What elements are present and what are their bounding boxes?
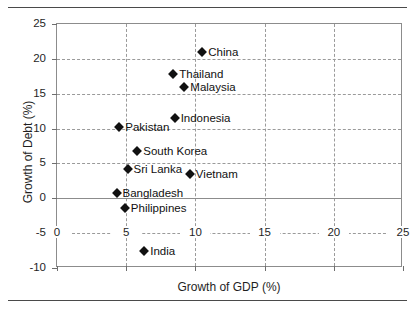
data-point-marker [179, 82, 189, 92]
x-tick-label-20: 20 [319, 226, 349, 238]
data-point-label: Philippines [131, 202, 187, 214]
data-point-marker [168, 69, 178, 79]
data-point-label: Indonesia [181, 112, 231, 124]
zero-line [57, 198, 401, 199]
y-tick-label--10: -10 [12, 261, 46, 273]
y-tick-mark-20 [52, 59, 57, 60]
gridline-horizontal-20 [57, 59, 401, 60]
data-point-label: Malaysia [190, 81, 235, 93]
x-tick-label-15: 15 [250, 226, 280, 238]
x-tick-mark-25 [403, 266, 404, 271]
y-tick-mark-0 [52, 198, 57, 199]
y-tick-label-25: 25 [12, 17, 46, 29]
gridline-horizontal--5 [57, 233, 401, 234]
data-point-label: India [150, 245, 175, 257]
data-point-label: Bangladesh [123, 187, 184, 199]
x-tick-mark-20 [334, 266, 335, 271]
data-point-label: Pakistan [125, 121, 169, 133]
x-tick-label-5: 5 [111, 226, 141, 238]
y-axis-title: Growth of Debt (%) [21, 72, 35, 232]
data-point-label: Vietnam [196, 168, 238, 180]
x-tick-label-10: 10 [180, 226, 210, 238]
data-point-marker [197, 47, 207, 57]
x-axis-title: Growth of GDP (%) [56, 280, 402, 294]
data-point-marker [170, 113, 180, 123]
data-point-marker [185, 169, 195, 179]
x-tick-label-25: 25 [388, 226, 415, 238]
y-tick-mark-5 [52, 163, 57, 164]
y-tick-mark-25 [52, 24, 57, 25]
y-tick-label-20: 20 [12, 52, 46, 64]
y-tick-mark-15 [52, 94, 57, 95]
data-point-label: China [208, 46, 238, 58]
gridline-horizontal-10 [57, 129, 401, 130]
plot-area: ChinaThailandMalaysiaIndonesiaPakistanSo… [56, 23, 402, 267]
figure: ChinaThailandMalaysiaIndonesiaPakistanSo… [0, 0, 415, 312]
x-tick-mark-10 [195, 266, 196, 271]
y-tick-mark-10 [52, 129, 57, 130]
x-tick-mark-0 [57, 266, 58, 271]
figure-top-rule [8, 7, 407, 8]
x-tick-mark-15 [265, 266, 266, 271]
data-point-marker [112, 188, 122, 198]
x-tick-mark-5 [126, 266, 127, 271]
data-point-marker [132, 146, 142, 156]
data-point-marker [114, 122, 124, 132]
gridline-horizontal-15 [57, 94, 401, 95]
gridline-horizontal-5 [57, 163, 401, 164]
figure-bottom-rule [8, 300, 407, 301]
data-point-marker [123, 164, 133, 174]
x-tick-label-0: 0 [42, 226, 72, 238]
data-point-marker [139, 246, 149, 256]
data-point-label: Sri Lanka [134, 163, 183, 175]
data-point-label: South Korea [143, 145, 207, 157]
data-point-label: Thailand [179, 68, 223, 80]
data-point-marker [120, 203, 130, 213]
